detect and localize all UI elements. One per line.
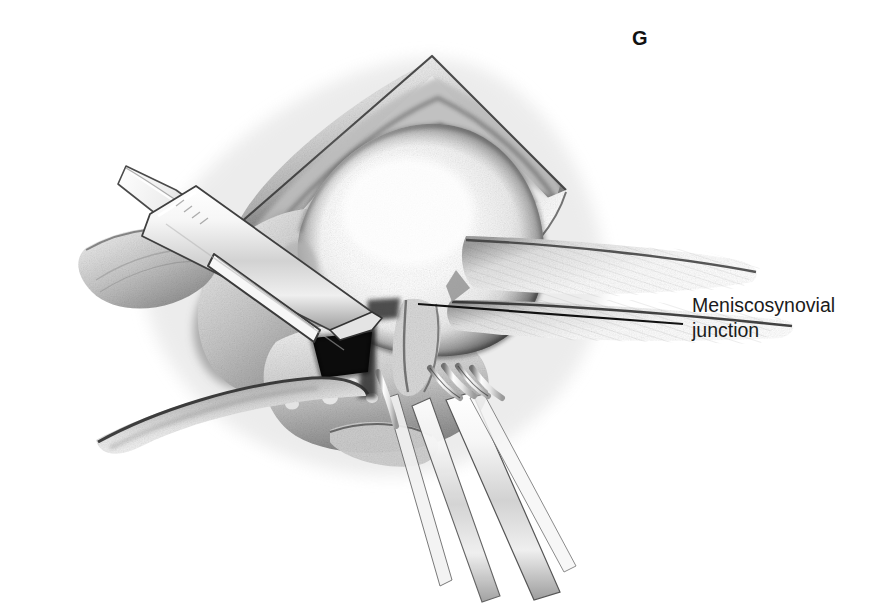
callout-line-1: Meniscosynovial	[692, 294, 835, 316]
callout-line-2: junction	[692, 318, 835, 343]
panel-label-g: G	[632, 28, 648, 48]
condyle-highlight	[342, 158, 474, 266]
callout-meniscosynovial-junction: Meniscosynovial junction	[692, 293, 835, 343]
figure-root: G Meniscosynovial junction	[0, 0, 872, 608]
